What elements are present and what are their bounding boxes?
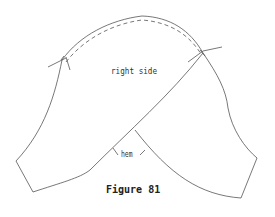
hem-tick-left <box>113 148 118 155</box>
right-notch <box>188 47 222 62</box>
left-notch <box>48 56 70 70</box>
hem-tick-right <box>140 150 145 155</box>
figure-caption: Figure 81 <box>106 184 160 195</box>
right-side-label: right side <box>111 66 157 76</box>
hem-label: hem <box>121 150 133 159</box>
left-piece-edge <box>16 53 203 192</box>
stitch-line <box>66 20 201 62</box>
cap-seam-line <box>62 16 203 60</box>
